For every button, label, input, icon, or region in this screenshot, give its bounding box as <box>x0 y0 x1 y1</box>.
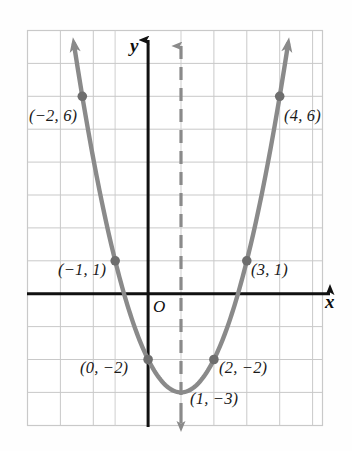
point-label-4-6: (4, 6) <box>284 108 321 125</box>
point-label-0-neg2: (0, −2) <box>80 360 128 377</box>
point-label-1-neg3: (1, −3) <box>190 391 238 408</box>
point-marker[interactable] <box>209 355 219 365</box>
point-marker[interactable] <box>110 256 120 266</box>
point-marker[interactable] <box>143 355 153 365</box>
point-label-2-neg2: (2, −2) <box>219 360 267 377</box>
graph-canvas <box>0 0 352 451</box>
point-label-3-1: (3, 1) <box>251 262 288 279</box>
point-marker[interactable] <box>78 92 88 102</box>
point-label-neg1-1: (−1, 1) <box>58 262 106 279</box>
point-marker[interactable] <box>275 92 285 102</box>
parabola-figure: (−2, 6) (−1, 1) (0, −2) (1, −3) (2, −2) … <box>0 0 352 451</box>
grid-lines <box>28 31 323 426</box>
origin-label: O <box>153 298 165 315</box>
y-axis-label: y <box>130 36 138 55</box>
x-axis-label: x <box>325 292 335 311</box>
point-label-neg2-6: (−2, 6) <box>29 108 77 125</box>
